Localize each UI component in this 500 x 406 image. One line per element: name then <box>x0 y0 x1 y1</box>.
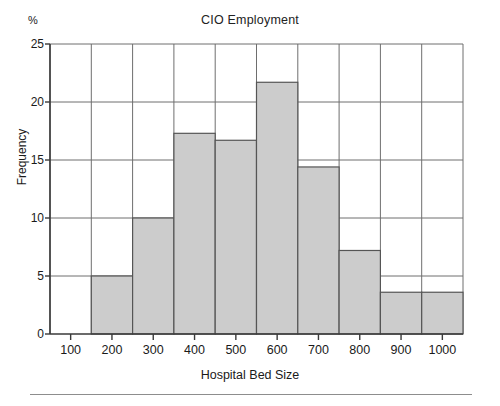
y-tick-label: 0 <box>10 327 44 341</box>
histogram-figure: % CIO Employment Frequency Hospital Bed … <box>0 0 500 406</box>
y-tick-label: 25 <box>10 37 44 51</box>
histogram-bar <box>133 218 174 334</box>
y-tick-labels: 0510152025 <box>8 0 44 406</box>
histogram-bar <box>298 167 339 334</box>
histogram-bar <box>257 82 298 334</box>
y-tick-label: 15 <box>10 153 44 167</box>
histogram-bar <box>174 133 215 334</box>
y-tick-label: 20 <box>10 95 44 109</box>
x-tick-label: 1000 <box>412 343 472 357</box>
histogram-bar <box>91 276 132 334</box>
footer-rule <box>30 394 472 395</box>
y-tick-label: 5 <box>10 269 44 283</box>
histogram-bar <box>215 140 256 334</box>
histogram-bar <box>380 292 421 334</box>
histogram-bar <box>339 250 380 334</box>
y-tick-label: 10 <box>10 211 44 225</box>
histogram-bar <box>422 292 463 334</box>
